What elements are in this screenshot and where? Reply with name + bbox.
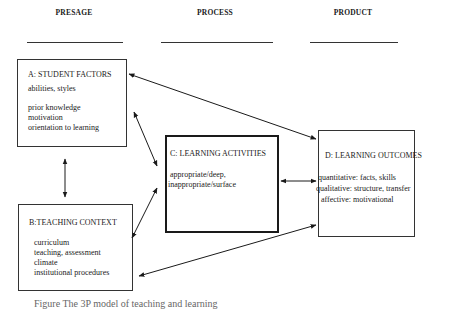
learning-activities-item: inappropriate/surface bbox=[168, 180, 236, 190]
arrow-a-d bbox=[129, 74, 316, 139]
arrow-b-c bbox=[132, 188, 157, 238]
box-learning-outcomes: D: LEARNING OUTCOMES quantitative: facts… bbox=[318, 130, 415, 237]
teaching-context-title: B:TEACHING CONTEXT bbox=[29, 218, 117, 227]
learning-outcomes-title: D: LEARNING OUTCOMES bbox=[325, 151, 422, 160]
process-rule bbox=[161, 42, 273, 43]
teaching-context-item: climate bbox=[34, 258, 58, 268]
learning-outcomes-item: qualitative: structure, transfer bbox=[316, 184, 410, 194]
learning-activities-title: C: LEARNING ACTIVITIES bbox=[170, 149, 266, 158]
student-factors-item: orientation to learning bbox=[28, 123, 99, 133]
student-factors-item: motivation bbox=[28, 113, 63, 123]
header-product: PRODUCT bbox=[334, 8, 372, 17]
student-factors-title: A: STUDENT FACTORS bbox=[28, 70, 112, 79]
header-presage: PRESAGE bbox=[56, 8, 93, 17]
arrow-a-c bbox=[134, 112, 157, 166]
learning-activities-item: appropriate/deep, bbox=[170, 170, 226, 180]
header-process: PROCESS bbox=[197, 8, 233, 17]
teaching-context-item: teaching, assessment bbox=[34, 248, 101, 258]
box-teaching-context: B:TEACHING CONTEXT curriculum teaching, … bbox=[18, 204, 133, 291]
learning-outcomes-item: affective: motivational bbox=[321, 195, 394, 205]
figure-caption: Figure The 3P model of teaching and lear… bbox=[34, 298, 218, 309]
student-factors-item: prior knowledge bbox=[28, 103, 81, 113]
teaching-context-item: institutional procedures bbox=[34, 268, 109, 278]
teaching-context-item: curriculum bbox=[34, 238, 69, 248]
learning-outcomes-item: quantitative: facts, skills bbox=[318, 173, 396, 183]
box-student-factors: A: STUDENT FACTORS abilities, styles pri… bbox=[17, 59, 127, 147]
presage-rule bbox=[27, 42, 123, 43]
box-learning-activities: C: LEARNING ACTIVITIES appropriate/deep,… bbox=[165, 135, 279, 233]
product-rule bbox=[310, 42, 398, 43]
student-factors-item: abilities, styles bbox=[28, 84, 76, 94]
